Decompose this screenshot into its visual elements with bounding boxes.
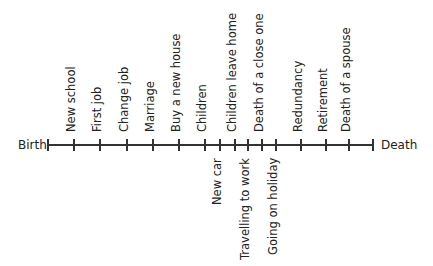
event-label: New car [211, 158, 224, 205]
event-label: Marriage [144, 81, 157, 132]
event-tick [261, 139, 262, 151]
event-tick [219, 139, 220, 151]
birth-tick [47, 139, 48, 151]
event-tick [234, 139, 235, 151]
event-tick [178, 139, 179, 151]
timeline-axis [48, 144, 373, 146]
event-label: Change job [118, 67, 131, 132]
event-label: Retirement [317, 68, 330, 132]
event-tick [247, 139, 248, 151]
event-label: Death of a spouse [340, 27, 353, 132]
birth-label: Birth [18, 138, 47, 152]
event-tick [73, 139, 74, 151]
event-tick [300, 139, 301, 151]
event-tick [325, 139, 326, 151]
event-tick [126, 139, 127, 151]
life-events-timeline: Birth New schoolFirst jobChange jobMarri… [0, 0, 433, 266]
event-tick [99, 139, 100, 151]
death-tick [372, 139, 373, 151]
event-label: New school [65, 66, 78, 132]
event-tick [348, 139, 349, 151]
event-label: Children [196, 84, 209, 132]
event-tick [152, 139, 153, 151]
event-label: Death of a close one [253, 13, 266, 132]
event-tick [275, 139, 276, 151]
event-tick [204, 139, 205, 151]
event-label: Redundancy [292, 61, 305, 132]
death-label: Death [381, 138, 417, 152]
event-label: Children leave home [226, 13, 239, 132]
event-label: Buy a new house [170, 34, 183, 132]
event-label: Travelling to work [239, 158, 252, 260]
event-label: First job [91, 87, 104, 132]
event-label: Going on holiday [267, 158, 280, 255]
